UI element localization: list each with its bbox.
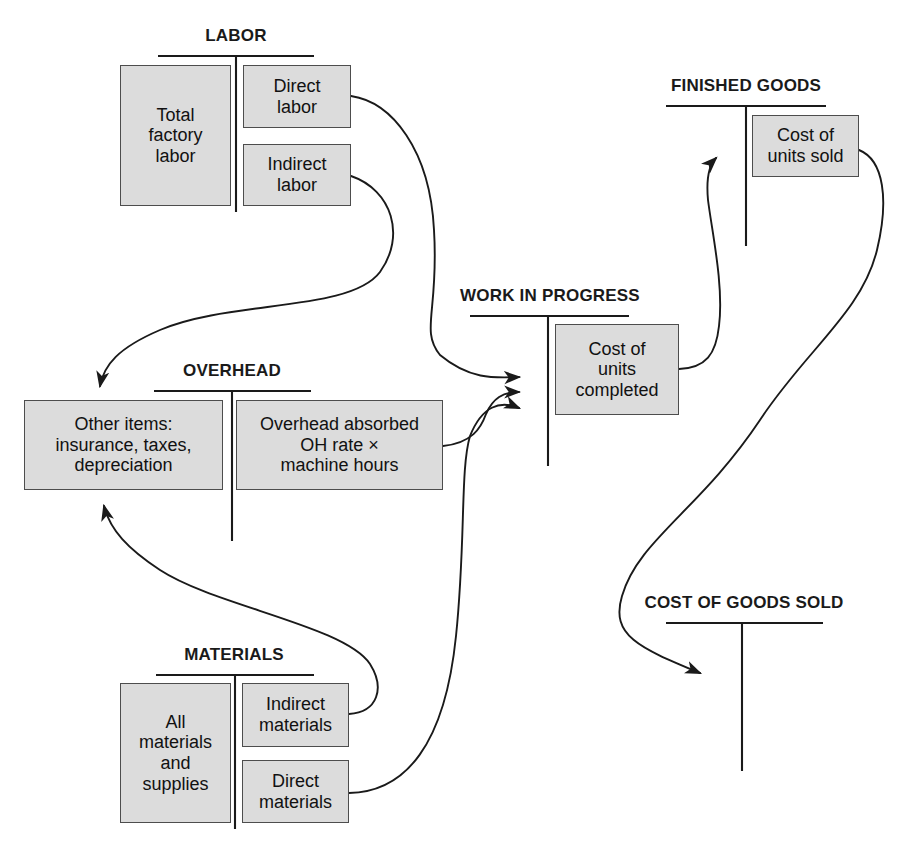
- cost-flow-diagram: LABOR OVERHEAD MATERIALS WORK IN PROGRES…: [0, 0, 911, 850]
- box-indirect-materials[interactable]: Indirect materials: [242, 683, 349, 747]
- box-cost-of-units-sold[interactable]: Cost of units sold: [752, 115, 859, 177]
- flow-indirect-labor-to-overhead: [100, 176, 393, 386]
- box-direct-labor[interactable]: Direct labor: [243, 65, 351, 128]
- flow-overhead-absorbed-to-wip: [443, 392, 519, 446]
- flow-direct-labor-to-wip: [351, 96, 519, 378]
- account-title-overhead: OVERHEAD: [152, 361, 312, 381]
- box-all-materials-and-supplies[interactable]: All materials and supplies: [120, 683, 231, 823]
- box-cost-of-units-completed[interactable]: Cost of units completed: [555, 324, 679, 415]
- account-title-work-in-progress: WORK IN PROGRESS: [434, 286, 666, 306]
- account-title-cost-of-goods-sold: COST OF GOODS SOLD: [614, 593, 874, 613]
- box-direct-materials[interactable]: Direct materials: [242, 760, 349, 823]
- box-overhead-absorbed[interactable]: Overhead absorbed OH rate × machine hour…: [236, 400, 443, 490]
- flow-units-completed-to-finished-goods: [679, 158, 720, 369]
- account-title-labor: LABOR: [156, 26, 316, 46]
- box-total-factory-labor[interactable]: Total factory labor: [120, 65, 231, 206]
- box-other-items[interactable]: Other items: insurance, taxes, depreciat…: [24, 400, 223, 490]
- account-title-finished-goods: FINISHED GOODS: [650, 76, 842, 96]
- box-indirect-labor[interactable]: Indirect labor: [243, 144, 351, 206]
- account-title-materials: MATERIALS: [154, 645, 314, 665]
